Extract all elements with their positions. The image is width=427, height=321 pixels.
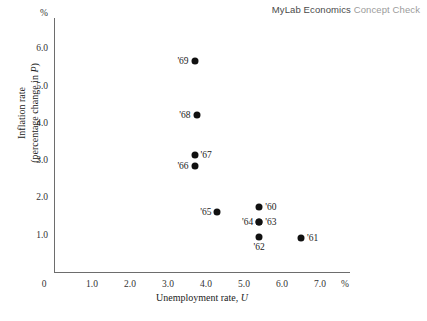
x-tick-label: 1.0 bbox=[86, 279, 98, 289]
data-point-label: '68 bbox=[179, 110, 190, 120]
y-axis-title-line2: (percentage change in P) bbox=[28, 23, 41, 203]
data-point-marker bbox=[298, 235, 305, 242]
mylab-brand-label: MyLab Economics bbox=[272, 4, 351, 15]
data-point-marker bbox=[214, 209, 221, 216]
y-tick-label: 1.0 bbox=[36, 230, 48, 240]
data-point-marker bbox=[256, 203, 263, 210]
x-tick-label: 2.0 bbox=[124, 279, 136, 289]
x-tick-label: 6.0 bbox=[276, 279, 288, 289]
data-point-marker bbox=[191, 162, 198, 169]
data-point-marker bbox=[256, 233, 263, 240]
data-point-label: '60 bbox=[265, 202, 276, 212]
mylab-header: MyLab Economics Concept Check bbox=[272, 4, 420, 15]
data-point-marker bbox=[193, 112, 200, 119]
data-point-label: '69 bbox=[177, 56, 188, 66]
data-point-marker bbox=[191, 58, 198, 65]
data-point-label: '65 bbox=[200, 207, 211, 217]
x-tick-label: 4.0 bbox=[200, 279, 212, 289]
x-axis-line bbox=[54, 272, 350, 273]
data-point-label: '62 bbox=[254, 242, 265, 252]
x-axis-title: Unemployment rate, U bbox=[54, 292, 350, 303]
data-point-label: '63 bbox=[265, 217, 276, 227]
phillips-curve-scatter-figure: MyLab Economics Concept Check % % 1.02.0… bbox=[0, 0, 427, 321]
x-tick-label: 5.0 bbox=[238, 279, 250, 289]
data-point-marker bbox=[191, 151, 198, 158]
data-point-label: '67 bbox=[201, 150, 212, 160]
y-axis-unit-percent: % bbox=[40, 8, 48, 18]
x-tick-label: 3.0 bbox=[162, 279, 174, 289]
x-axis-unit-percent: % bbox=[341, 279, 349, 289]
y-axis-title: Inflation rate(percentage change in P) bbox=[15, 23, 41, 203]
data-point-label: '64 bbox=[242, 217, 253, 227]
concept-check-label: Concept Check bbox=[354, 4, 420, 15]
data-point-marker bbox=[256, 218, 263, 225]
y-axis-line bbox=[54, 18, 55, 273]
x-tick-label: 7.0 bbox=[314, 279, 326, 289]
y-axis-title-line1: Inflation rate bbox=[15, 23, 28, 203]
data-point-label: '61 bbox=[307, 233, 318, 243]
x-tick-label: 0 bbox=[42, 279, 47, 289]
data-point-label: '66 bbox=[177, 161, 188, 171]
